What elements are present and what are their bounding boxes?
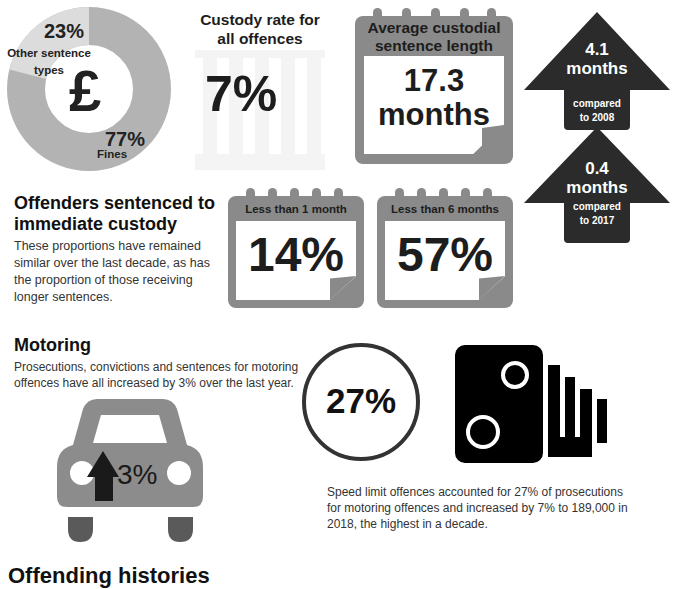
arrow-value-unit: months <box>566 178 627 197</box>
immediate-custody-title: Offenders sentenced to immediate custody <box>14 193 215 235</box>
custody-title-line2: all offences <box>217 30 302 47</box>
immediate-title-line1: Offenders sentenced to <box>14 193 215 213</box>
calendar-less-than-6-months: Less than 6 months 57% <box>377 188 513 308</box>
avg-value-number: 17.3 <box>404 63 464 98</box>
other-label-line2: types <box>34 64 64 76</box>
fines-donut-chart: £ 23% Other sentence types 77% Fines <box>0 0 178 178</box>
car-increase-value: 3% <box>117 459 157 491</box>
custody-rate-panel: Custody rate for all offences 7% <box>195 10 325 170</box>
card-value: 57% <box>377 228 513 282</box>
arrow-note-line2: to 2017 <box>580 215 614 226</box>
custody-title-line1: Custody rate for <box>200 11 320 28</box>
body-line: Prosecutions, convictions and sentences … <box>14 359 298 375</box>
immediate-custody-body: These proportions have remained similar … <box>14 238 210 306</box>
other-pct: 23% <box>44 20 84 43</box>
fines-label: Fines <box>97 148 127 160</box>
body-line: These proportions have remained <box>14 238 210 255</box>
other-label: Other sentence types <box>6 45 92 79</box>
other-label-line1: Other sentence <box>7 47 91 59</box>
increase-arrow-2008: 4.1 months compared to 2008 <box>522 10 672 130</box>
arrow-value-number: 4.1 <box>585 40 609 59</box>
custody-rate-value: 7% <box>205 66 277 122</box>
circle-value: 27% <box>306 381 416 421</box>
immediate-title-line2: immediate custody <box>14 214 177 234</box>
increase-arrow-2017: 0.4 months compared to 2017 <box>522 125 672 243</box>
offending-histories-title: Offending histories <box>8 563 210 589</box>
arrow-note-line1: compared <box>573 201 621 212</box>
body-line: offences have all increased by 3% over t… <box>14 375 298 391</box>
arrow-value: 4.1 months <box>522 40 672 78</box>
avg-sentence-calendar: Average custodial sentence length 17.3 m… <box>355 8 513 164</box>
avg-value-unit: months <box>378 97 490 132</box>
body-line: for motoring offences and increased by 7… <box>327 500 628 516</box>
speed-limit-text: Speed limit offences accounted for 27% o… <box>327 484 628 532</box>
card-value: 14% <box>228 228 364 282</box>
card-label: Less than 1 month <box>228 203 364 215</box>
speed-pct-circle: 27% <box>302 343 420 461</box>
motoring-title: Motoring <box>14 335 91 356</box>
body-line: Speed limit offences accounted for 27% o… <box>327 484 628 500</box>
arrow-value-unit: months <box>566 59 627 78</box>
calendar-less-than-1-month: Less than 1 month 14% <box>228 188 364 308</box>
avg-sentence-value: 17.3 months <box>355 64 513 132</box>
car-icon: 3% <box>55 397 205 542</box>
arrow-value-number: 0.4 <box>585 159 609 178</box>
card-label: Less than 6 months <box>377 203 513 215</box>
avg-title-line1: Average custodial <box>368 19 501 36</box>
arrow-note-line2: to 2008 <box>580 112 614 123</box>
arrow-value: 0.4 months <box>522 159 672 197</box>
arrow-note: compared to 2008 <box>522 97 672 125</box>
arrow-note-line1: compared <box>573 98 621 109</box>
body-line: similar over the last decade, as has <box>14 255 210 272</box>
body-line: the proportion of those receiving <box>14 272 210 289</box>
avg-sentence-title: Average custodial sentence length <box>355 19 513 55</box>
avg-title-line2: sentence length <box>375 37 493 54</box>
body-line: 2018, the highest in a decade. <box>327 516 628 532</box>
custody-rate-title: Custody rate for all offences <box>195 10 325 48</box>
motoring-body: Prosecutions, convictions and sentences … <box>14 359 298 391</box>
arrow-note: compared to 2017 <box>522 200 672 228</box>
body-line: longer sentences. <box>14 289 210 306</box>
speed-camera-icon <box>455 345 610 465</box>
